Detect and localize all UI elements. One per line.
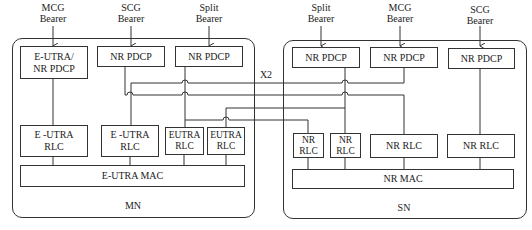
mn-eutra-rlc-4: EUTRA RLC: [207, 127, 245, 155]
sn-split-bearer-label: Split Bearer: [296, 2, 346, 24]
sn-scg-bearer-label: SCG Bearer: [455, 4, 505, 26]
mn-label: MN: [113, 200, 153, 211]
mn-scg-bearer-label: SCG Bearer: [106, 2, 156, 24]
mn-eutra-rlc-2: E -UTRA RLC: [101, 125, 159, 157]
mn-eutra-nr-pdcp: E-UTRA/ NR PDCP: [20, 46, 88, 79]
x2-interface-label: X2: [256, 69, 276, 80]
mn-eutra-rlc-1: E -UTRA RLC: [20, 125, 88, 157]
dual-connectivity-diagram: MCG Bearer SCG Bearer Split Bearer Split…: [0, 0, 532, 230]
sn-label: SN: [384, 202, 424, 213]
mn-scg-nr-pdcp: NR PDCP: [97, 46, 165, 67]
sn-mcg-bearer-label: MCG Bearer: [375, 2, 425, 24]
mn-mcg-bearer-label: MCG Bearer: [28, 2, 78, 24]
mn-eutra-mac: E-UTRA MAC: [20, 165, 245, 187]
sn-nr-rlc-1: NR RLC: [293, 133, 324, 158]
sn-nr-rlc-3: NR RLC: [370, 134, 438, 158]
mn-eutra-rlc-3: EUTRA RLC: [165, 127, 204, 155]
sn-scg-nr-pdcp: NR PDCP: [448, 48, 515, 69]
sn-nr-mac: NR MAC: [292, 169, 514, 189]
sn-split-nr-pdcp: NR PDCP: [292, 47, 360, 68]
sn-mcg-nr-pdcp: NR PDCP: [370, 47, 438, 68]
mn-split-bearer-label: Split Bearer: [184, 2, 234, 24]
sn-nr-rlc-2: NR RLC: [330, 133, 361, 158]
mn-split-nr-pdcp: NR PDCP: [175, 46, 243, 67]
sn-nr-rlc-4: NR RLC: [447, 134, 515, 158]
